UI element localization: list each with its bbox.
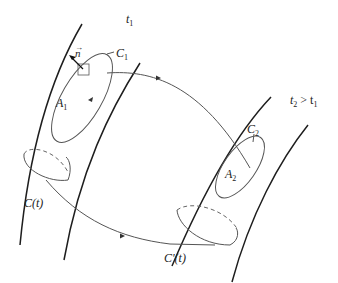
trajectory-bottom — [46, 180, 170, 244]
label-t2-gt-t1: t2 > t1 — [290, 93, 317, 109]
material-volume-diagram: t1 t2 > t1 C1 C2 A1 A2 n → C(t) C'(t) — [0, 0, 338, 283]
label-Ct: C(t) — [24, 196, 43, 210]
trajectory-bottom-to-right — [170, 244, 215, 245]
label-C2: C2 — [247, 122, 259, 138]
contour-C2 — [206, 128, 274, 205]
tube-left-inner-wall — [64, 63, 140, 260]
tube-right-inner-wall — [232, 125, 308, 282]
label-A1: A1 — [55, 96, 67, 112]
label-normal-arrow: → — [75, 43, 83, 52]
cross-section-right-front — [177, 210, 238, 245]
normal-vector-line — [72, 58, 83, 69]
c1-direction-arrow-icon — [88, 97, 93, 102]
label-t1: t1 — [126, 12, 133, 28]
label-Cprime-t: C'(t) — [164, 251, 186, 265]
contour-C1 — [40, 45, 125, 152]
label-A2: A2 — [224, 167, 236, 183]
tube-right-outer-wall — [172, 97, 271, 266]
label-C1: C1 — [116, 46, 128, 62]
cross-section-right-back — [177, 206, 238, 230]
c1-leader-line — [107, 52, 114, 54]
